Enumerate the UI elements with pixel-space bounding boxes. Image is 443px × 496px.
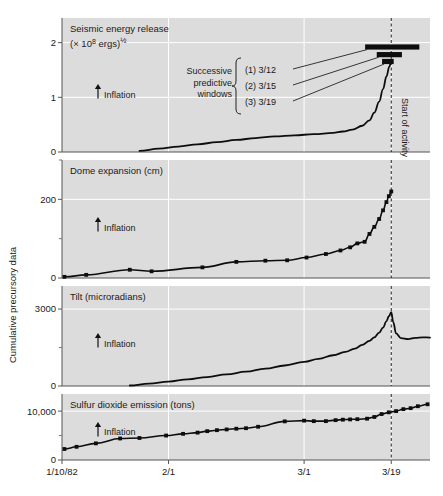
- y-tick-label: 0: [51, 272, 56, 283]
- panel-subtitle: (× 108 ergs)½: [70, 36, 127, 50]
- panel-1: 012Seismic energy release(× 108 ergs)½In…: [51, 18, 430, 157]
- data-point-marker: [128, 268, 132, 272]
- data-point-marker: [324, 252, 328, 256]
- data-point-marker: [348, 245, 352, 249]
- data-point-marker: [380, 412, 384, 416]
- panel-title: Sulfur dioxide emission (tons): [70, 399, 195, 410]
- x-axis: 1/10/822/13/13/19: [46, 460, 400, 477]
- data-point-marker: [75, 445, 79, 449]
- data-point-marker: [84, 273, 88, 277]
- data-point-marker: [426, 402, 430, 406]
- y-tick-label: 0: [51, 454, 56, 465]
- data-point-marker: [305, 256, 309, 260]
- y-tick-label: 2: [51, 37, 56, 48]
- data-point-marker: [401, 407, 405, 411]
- data-point-marker: [381, 208, 385, 212]
- data-point-marker: [234, 260, 238, 264]
- data-point-marker: [387, 410, 391, 414]
- y-tick-label: 0: [51, 380, 56, 391]
- data-point-marker: [409, 406, 413, 410]
- panel-title: Tilt (microradians): [70, 291, 146, 302]
- data-point-marker: [377, 217, 381, 221]
- data-point-marker: [205, 429, 209, 433]
- predictive-window-bar: [377, 52, 402, 57]
- data-point-marker: [244, 426, 248, 430]
- predictive-window-label: (1) 3/12: [245, 65, 276, 75]
- predictive-window-label: (3) 3/19: [245, 97, 276, 107]
- data-point-marker: [215, 428, 219, 432]
- y-tick-label: 1: [51, 92, 56, 103]
- data-point-marker: [164, 434, 168, 438]
- predictive-window-label: (2) 3/15: [245, 81, 276, 91]
- data-point-marker: [63, 275, 67, 279]
- data-point-marker: [372, 415, 376, 419]
- data-point-marker: [368, 232, 372, 236]
- annotation-line: predictive: [193, 78, 232, 88]
- annotation-line: windows: [196, 89, 232, 99]
- figure-cumulative-precursory-data: 012Seismic energy release(× 108 ergs)½In…: [0, 0, 443, 496]
- predictive-window-bar: [382, 59, 394, 64]
- inflation-label: Inflation: [104, 223, 136, 233]
- data-point-marker: [150, 269, 154, 273]
- inflation-label: Inflation: [104, 90, 136, 100]
- data-point-marker: [385, 200, 389, 204]
- panel-4: 010,000Sulfur dioxide emission (tons)Inf…: [27, 394, 430, 465]
- predictive-window-bar: [365, 44, 419, 49]
- data-point-marker: [302, 419, 306, 423]
- data-point-marker: [365, 417, 369, 421]
- data-point-marker: [387, 194, 391, 198]
- data-point-marker: [355, 241, 359, 245]
- data-point-marker: [256, 425, 260, 429]
- data-point-marker: [312, 419, 316, 423]
- data-point-marker: [196, 431, 200, 435]
- data-point-marker: [234, 427, 238, 431]
- data-point-marker: [355, 417, 359, 421]
- chart-canvas: 012Seismic energy release(× 108 ergs)½In…: [0, 0, 443, 496]
- data-point-marker: [339, 249, 343, 253]
- y-axis-label: Cumulative precursory data: [7, 246, 18, 363]
- annotation-line: Successive: [186, 66, 232, 76]
- x-tick-label: 3/19: [382, 466, 401, 477]
- data-point-marker: [201, 265, 205, 269]
- y-tick-label: 3000: [35, 303, 56, 314]
- data-point-marker: [263, 259, 267, 263]
- data-point-marker: [341, 418, 345, 422]
- data-point-marker: [63, 447, 67, 451]
- data-point-marker: [324, 419, 328, 423]
- y-tick-label: 10,000: [27, 406, 56, 417]
- y-tick-label: 0: [51, 146, 56, 157]
- event-line-label: Start of activity: [400, 98, 410, 158]
- inflation-label: Inflation: [104, 339, 136, 349]
- data-point-marker: [348, 418, 352, 422]
- data-point-marker: [138, 436, 142, 440]
- data-point-marker: [225, 428, 229, 432]
- data-point-marker: [363, 240, 367, 244]
- data-point-marker: [334, 418, 338, 422]
- data-point-marker: [94, 441, 98, 445]
- panel-3: 03000Tilt (microradians)Inflation: [35, 286, 430, 391]
- data-point-marker: [181, 432, 185, 436]
- y-tick-label: 200: [40, 194, 56, 205]
- panel-background: [62, 160, 430, 278]
- data-point-marker: [285, 258, 289, 262]
- data-point-marker: [416, 404, 420, 408]
- panel-title: Dome expansion (cm): [70, 165, 163, 176]
- data-point-marker: [394, 409, 398, 413]
- data-point-marker: [389, 190, 393, 194]
- panel-2: 0200Dome expansion (cm)Inflation: [40, 160, 430, 283]
- x-tick-label: 2/1: [162, 466, 175, 477]
- data-point-marker: [372, 225, 376, 229]
- data-point-marker: [283, 419, 287, 423]
- inflation-label: Inflation: [104, 427, 136, 437]
- panel-title: Seismic energy release: [70, 23, 169, 34]
- x-tick-label: 3/1: [297, 466, 310, 477]
- x-tick-label: 1/10/82: [46, 466, 78, 477]
